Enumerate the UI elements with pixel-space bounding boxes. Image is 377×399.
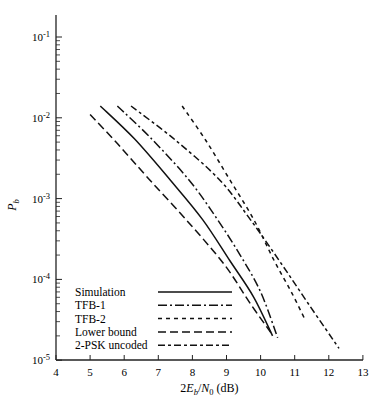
legend-label: Lower bound bbox=[75, 326, 137, 338]
x-tick-label: 4 bbox=[53, 366, 59, 378]
x-tick-label: 7 bbox=[156, 366, 162, 378]
series-lower-bound bbox=[90, 114, 271, 332]
ber-chart: 10-110-210-310-410-5456789101112132Eb/N0… bbox=[0, 0, 377, 399]
y-tick-label: 10-2 bbox=[32, 110, 50, 124]
y-tick-label: 10-3 bbox=[32, 191, 50, 205]
x-tick-label: 10 bbox=[255, 366, 267, 378]
x-tick-label: 8 bbox=[190, 366, 196, 378]
y-tick-label: 10-4 bbox=[32, 271, 51, 285]
x-tick-label: 11 bbox=[289, 366, 300, 378]
legend-label: TFB-1 bbox=[75, 299, 106, 311]
y-tick-label: 10-1 bbox=[32, 29, 50, 43]
x-tick-label: 6 bbox=[121, 366, 127, 378]
y-tick-label: 10-5 bbox=[32, 352, 50, 366]
legend-label: 2-PSK uncoded bbox=[75, 339, 148, 351]
x-tick-label: 5 bbox=[87, 366, 93, 378]
series-tfb-1 bbox=[117, 106, 277, 338]
series-tfb-2 bbox=[182, 106, 305, 319]
x-tick-label: 12 bbox=[323, 366, 334, 378]
legend-label: TFB-2 bbox=[75, 313, 106, 325]
x-tick-label: 13 bbox=[357, 366, 369, 378]
legend-label: Simulation bbox=[75, 286, 126, 298]
series-2-psk-uncoded bbox=[131, 106, 339, 348]
x-axis-label: 2Eb/N0 (dB) bbox=[180, 381, 238, 397]
series-simulation bbox=[100, 106, 272, 336]
y-axis-label: Pb bbox=[5, 199, 21, 212]
x-tick-label: 9 bbox=[224, 366, 230, 378]
